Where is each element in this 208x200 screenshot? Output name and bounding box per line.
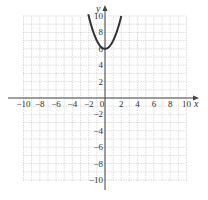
x-tick-label: −4 [68, 99, 78, 109]
x-tick-label: 6 [152, 99, 157, 109]
x-tick-label: −8 [35, 99, 45, 109]
x-tick-label: 8 [168, 99, 173, 109]
x-tick-label: 0 [100, 99, 105, 109]
x-tick-label: −2 [84, 99, 94, 109]
x-tick-label: 2 [119, 99, 124, 109]
y-tick-label: 8 [99, 27, 104, 37]
y-tick-label: 4 [99, 60, 104, 70]
x-tick-label: −10 [16, 99, 31, 109]
coordinate-plane: −10−8−6−4−20246810−10−8−6−4−2246810 x y [0, 0, 208, 200]
x-tick-label: −6 [51, 99, 61, 109]
y-tick-label: −8 [93, 159, 103, 169]
y-tick-label: −4 [93, 126, 103, 136]
y-axis-label: y [95, 3, 101, 14]
x-tick-label: 4 [135, 99, 140, 109]
x-axis-label: x [193, 98, 199, 109]
y-tick-label: 2 [99, 77, 104, 87]
y-tick-label: −6 [93, 142, 103, 152]
y-tick-label: −10 [89, 175, 104, 185]
x-tick-label: 10 [182, 99, 192, 109]
y-tick-label: −2 [93, 109, 103, 119]
